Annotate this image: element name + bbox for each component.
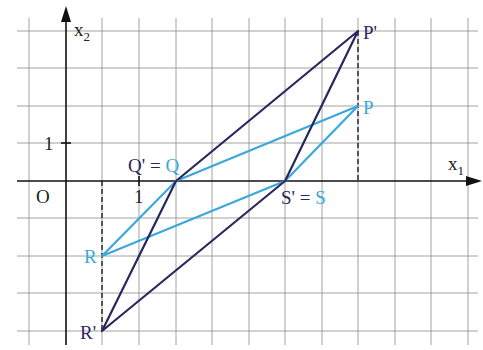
axes [17,6,482,345]
x2-axis-label: x2 [74,19,90,44]
x2-axis-arrow-icon [61,6,71,22]
label-q-prime-equals-q: Q' = Q [128,155,179,176]
origin-label: O [36,186,50,207]
x1-axis-arrow-icon [466,176,482,186]
label-r: R [84,246,97,267]
label-r-prime: R' [80,322,96,343]
y-tick-label: 1 [44,133,54,154]
x1-axis-label: x1 [448,153,464,178]
label-p: P [363,97,374,118]
label-s-prime-equals-s: S' = S [281,187,326,208]
label-p-prime: P' [363,22,377,43]
coordinate-diagram: x1 x2 O 1 1 Q' = Q S' = S P' P R R' [0,0,483,350]
x-tick-label: 1 [134,186,144,207]
diagram-canvas: x1 x2 O 1 1 Q' = Q S' = S P' P R R' [0,0,483,350]
